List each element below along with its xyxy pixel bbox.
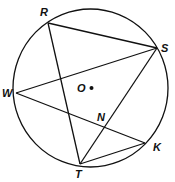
label-w: W	[2, 87, 14, 99]
center-point-o	[90, 86, 94, 90]
chord-rt	[48, 23, 80, 164]
chord-st	[80, 48, 157, 164]
label-t: T	[75, 168, 83, 180]
label-s: S	[161, 42, 169, 54]
chord-tk	[80, 143, 145, 164]
label-o: O	[77, 82, 86, 94]
label-k: K	[153, 141, 162, 153]
chord-rs	[48, 23, 157, 48]
label-n: N	[97, 111, 106, 123]
label-r: R	[40, 6, 48, 18]
circle-geometry-diagram: R S W O N K T	[0, 0, 175, 182]
chord-ws	[16, 48, 157, 93]
chord-wk	[16, 93, 145, 143]
